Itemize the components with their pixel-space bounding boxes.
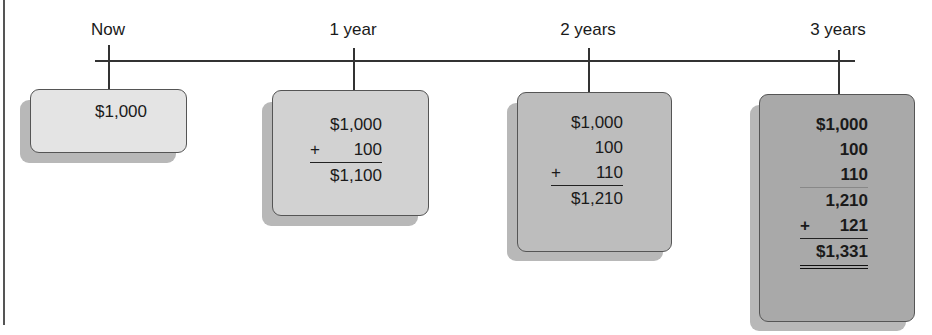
amount-value: $1,000: [571, 110, 623, 135]
calc-row: + 110: [551, 160, 623, 185]
calc-row: 100: [800, 137, 868, 162]
calc-row: $1,000: [551, 110, 623, 135]
period-label-2-years: 2 years: [560, 20, 616, 40]
amount-value: 110: [841, 162, 868, 187]
subtotal-value: 1,210: [825, 188, 868, 213]
amount-value: 110: [596, 160, 623, 185]
calc-row: $1,000: [310, 112, 382, 137]
amount-value: 100: [354, 137, 382, 162]
amount-value: $1,000: [816, 112, 868, 137]
period-label-now: Now: [91, 20, 125, 40]
subtotal-row: 1,210: [800, 187, 868, 213]
total-value: $1,210: [571, 186, 623, 211]
calc-row: 100: [551, 135, 623, 160]
timeline-tick-1-year: [353, 48, 355, 90]
timeline-axis: [95, 60, 855, 62]
plus-operator: +: [551, 160, 561, 185]
left-border-rule: [3, 0, 5, 325]
period-label-3-years: 3 years: [810, 20, 866, 40]
plus-operator: +: [800, 213, 810, 238]
plus-operator: +: [310, 137, 320, 162]
calc-row: 110: [800, 162, 868, 187]
total-row: $1,331: [800, 238, 868, 269]
calc-column: $1,000 100 + 110 $1,210: [551, 110, 623, 211]
total-value: $1,100: [330, 163, 382, 188]
period-label-1-year: 1 year: [329, 20, 376, 40]
timeline-tick-2-years: [588, 48, 590, 92]
calc-row: $1,000: [75, 99, 147, 124]
calc-column: $1,000: [75, 99, 147, 124]
calc-column: $1,000 + 100 $1,100: [310, 112, 382, 188]
amount-value: $1,000: [95, 99, 147, 124]
timeline-tick-3-years: [838, 50, 840, 94]
total-row: $1,100: [310, 162, 382, 188]
amount-value: 100: [840, 137, 868, 162]
amount-value: 100: [595, 135, 623, 160]
amount-value: 121: [840, 213, 868, 238]
calc-row: + 100: [310, 137, 382, 162]
total-value: $1,331: [816, 239, 868, 264]
timeline-tick-now: [108, 45, 110, 90]
calc-row: $1,000: [800, 112, 868, 137]
calc-column: $1,000 100 110 1,210 + 121 $1,331: [800, 112, 868, 269]
calc-row: + 121: [800, 213, 868, 238]
total-row: $1,210: [551, 185, 623, 211]
amount-value: $1,000: [330, 112, 382, 137]
